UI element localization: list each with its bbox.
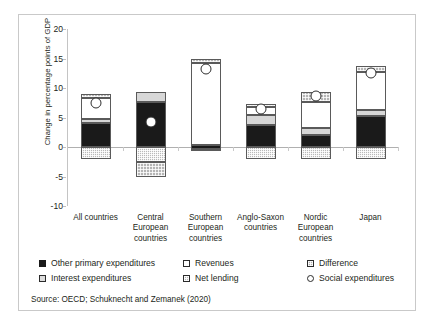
bar-segment-other-primary-expenditures <box>81 123 111 147</box>
legend-item-label: Net lending <box>195 273 238 283</box>
x-axis-category-label: Japan <box>359 213 381 223</box>
other-primary-expenditures-swatch <box>39 260 46 267</box>
x-axis-category-label: Anglo-Saxon countries <box>237 213 284 234</box>
x-axis-category-label: Southern European countries <box>188 213 224 244</box>
bar-segment-difference <box>136 162 166 177</box>
y-axis-tick-mark <box>63 88 66 89</box>
difference-swatch <box>307 260 314 267</box>
net-lending-swatch <box>183 275 190 282</box>
y-axis-tick-mark <box>63 118 66 119</box>
figure-container: Change in percentage points of GDP -10-5… <box>18 14 416 311</box>
bar-segment-net-lending <box>356 147 386 159</box>
bar-segment-interest-expenditures <box>246 115 276 126</box>
x-axis-tick-mark <box>288 147 289 151</box>
legend-item[interactable]: Revenues <box>183 258 234 268</box>
bar-segment-other-primary-expenditures <box>246 125 276 147</box>
x-axis-tick-mark <box>233 147 234 151</box>
x-axis-category-label: All countries <box>73 213 118 223</box>
bar-group[interactable] <box>301 29 331 206</box>
bar-segment-interest-expenditures <box>301 128 331 136</box>
social-expenditures-marker <box>365 68 376 79</box>
bar-segment-interest-expenditures <box>136 92 166 102</box>
social-expenditures-marker <box>145 116 156 127</box>
bar-segment-other-primary-expenditures <box>356 116 386 147</box>
y-axis-tick-mark <box>63 29 66 30</box>
bar-group[interactable] <box>81 29 111 206</box>
legend-item-label: Difference <box>319 258 358 268</box>
plot-canvas <box>68 29 398 206</box>
bar-group[interactable] <box>136 29 166 206</box>
bar-segment-revenues <box>301 102 331 127</box>
y-axis-tick-mark <box>63 177 66 178</box>
source-note: Source: OECD; Schuknecht and Zemanek (20… <box>31 295 211 304</box>
x-axis-category-label: Central European countries <box>133 213 169 244</box>
legend-item[interactable]: Difference <box>307 258 358 268</box>
social-expenditures-marker <box>90 97 101 108</box>
bar-group[interactable] <box>356 29 386 206</box>
legend-item[interactable]: Social expenditures <box>307 273 394 283</box>
x-axis-category-label: Nordic European countries <box>298 213 334 244</box>
legend-item[interactable]: Other primary expenditures <box>39 258 155 268</box>
bar-segment-net-lending <box>136 147 166 162</box>
y-axis-tick-mark <box>63 147 66 148</box>
y-axis-tick-label: 20 <box>53 24 63 34</box>
bar-segment-net-lending <box>81 147 111 159</box>
y-axis-tick-label: -5 <box>55 172 63 182</box>
y-axis-tick-label: 10 <box>53 83 63 93</box>
revenues-swatch <box>183 260 190 267</box>
bar-segment-net-lending <box>301 147 331 159</box>
x-axis-tick-mark <box>123 147 124 151</box>
x-axis-tick-mark <box>398 147 399 151</box>
bar-group[interactable] <box>246 29 276 206</box>
chart-legend: Other primary expendituresInterest expen… <box>31 258 405 290</box>
bar-segment-net-lending <box>246 147 276 159</box>
interest-expenditures-swatch <box>39 275 46 282</box>
plot-area: Change in percentage points of GDP -10-5… <box>19 15 417 215</box>
bar-segment-interest-expenditures <box>356 110 386 116</box>
bar-segment-other-primary-expenditures <box>191 145 221 149</box>
social-expenditures-marker <box>310 90 321 101</box>
y-axis-tick-mark <box>63 59 66 60</box>
x-axis-tick-mark <box>178 147 179 151</box>
social-expenditures-marker <box>255 103 266 114</box>
bar-segment-net-lending <box>191 149 221 151</box>
legend-item[interactable]: Interest expenditures <box>39 273 131 283</box>
social-expenditures-swatch <box>307 275 314 282</box>
x-axis-tick-labels: All countriesCentral European countriesS… <box>68 213 398 255</box>
y-axis-tick-labels: -10-505101520 <box>37 15 63 215</box>
bar-segment-difference <box>191 59 221 63</box>
bar-segment-other-primary-expenditures <box>301 135 331 147</box>
y-axis-tick-label: 15 <box>53 54 63 64</box>
x-axis-tick-mark <box>343 147 344 151</box>
bar-group[interactable] <box>191 29 221 206</box>
bar-segment-revenues <box>191 63 221 145</box>
legend-item-label: Other primary expenditures <box>51 258 155 268</box>
legend-item-label: Revenues <box>195 258 234 268</box>
social-expenditures-marker <box>200 64 211 75</box>
legend-item-label: Social expenditures <box>319 273 394 283</box>
legend-item-label: Interest expenditures <box>51 273 131 283</box>
y-axis-tick-label: -10 <box>51 201 63 211</box>
legend-item[interactable]: Net lending <box>183 273 238 283</box>
y-axis-tick-mark <box>63 206 66 207</box>
bar-segment-interest-expenditures <box>81 119 111 124</box>
